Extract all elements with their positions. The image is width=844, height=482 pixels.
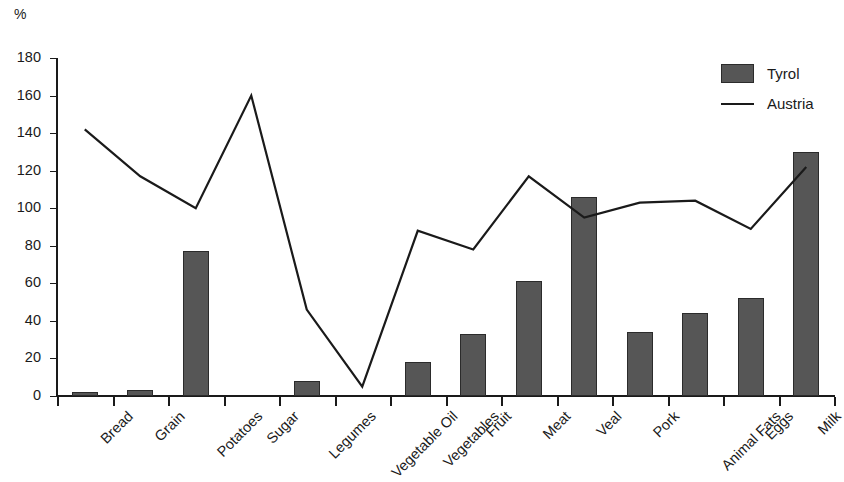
- y-tick: 80: [50, 246, 57, 247]
- y-tick: 100: [50, 208, 57, 209]
- y-tick-label: 140: [17, 124, 41, 140]
- x-axis-label: Sugar: [264, 408, 303, 447]
- y-tick: 120: [50, 171, 57, 172]
- y-tick-label: 40: [25, 312, 41, 328]
- y-tick-label: 80: [25, 237, 41, 253]
- x-axis-label: Grain: [152, 408, 188, 444]
- x-axis-label: Pork: [650, 408, 682, 440]
- bar-swatch-icon: [721, 64, 754, 83]
- plot-area: 020406080100120140160180: [57, 58, 834, 396]
- x-axis-label: Legumes: [325, 408, 378, 461]
- y-tick-label: 0: [33, 387, 41, 403]
- legend-item-label: Tyrol: [767, 65, 800, 82]
- y-tick-label: 20: [25, 349, 41, 365]
- y-tick: 180: [50, 58, 57, 59]
- y-tick-label: 60: [25, 274, 41, 290]
- y-tick-label: 160: [17, 87, 41, 103]
- x-tick: [390, 397, 392, 406]
- x-axis-label: Veal: [594, 408, 625, 439]
- x-tick: [612, 397, 614, 406]
- y-axis-unit-label: %: [14, 6, 26, 22]
- x-tick: [557, 397, 559, 406]
- y-tick: 20: [50, 358, 57, 359]
- x-axis-label: Bread: [97, 408, 136, 447]
- x-tick: [113, 397, 115, 406]
- x-axis-label: Potatoes: [214, 408, 266, 460]
- x-tick: [723, 397, 725, 406]
- legend-item[interactable]: Austria: [721, 88, 837, 118]
- x-tick: [57, 397, 59, 406]
- legend-item-label: Austria: [767, 95, 814, 112]
- x-tick: [224, 397, 226, 406]
- legend-item[interactable]: Tyrol: [721, 58, 837, 88]
- x-tick: [779, 397, 781, 406]
- x-tick: [446, 397, 448, 406]
- austria-polyline: [85, 96, 807, 387]
- x-tick: [501, 397, 503, 406]
- x-tick: [168, 397, 170, 406]
- y-tick-label: 120: [17, 162, 41, 178]
- y-tick: 40: [50, 321, 57, 322]
- x-axis-label: Milk: [815, 408, 844, 438]
- line-series-austria: [57, 58, 834, 396]
- x-tick: [668, 397, 670, 406]
- y-tick-label: 100: [17, 199, 41, 215]
- x-axis-label: Meat: [539, 408, 573, 442]
- chart-legend: TyrolAustria: [721, 58, 837, 118]
- line-swatch-icon: [721, 94, 754, 113]
- y-tick-label: 180: [17, 49, 41, 65]
- y-tick: 60: [50, 283, 57, 284]
- y-tick: 0: [50, 396, 57, 397]
- x-tick: [834, 397, 836, 406]
- y-tick: 160: [50, 96, 57, 97]
- x-tick: [335, 397, 337, 406]
- y-tick: 140: [50, 133, 57, 134]
- x-tick: [279, 397, 281, 406]
